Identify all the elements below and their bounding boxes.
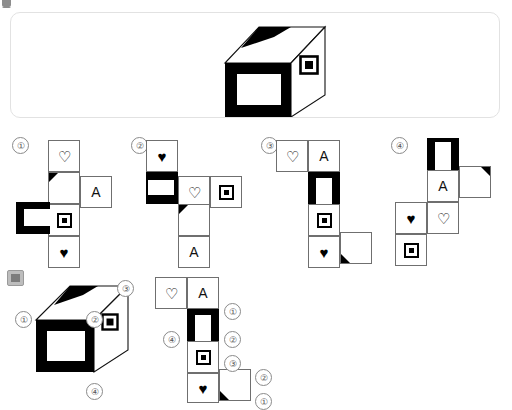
question-cube-svg — [211, 17, 337, 117]
c-shape-notch — [148, 180, 174, 195]
solution-badge-inner — [11, 274, 20, 282]
letter-a-label: A — [179, 237, 209, 267]
option-4-letter-a-cell[interactable]: A — [427, 170, 459, 202]
bordered-square-icon — [404, 243, 419, 258]
letter-a-label: A — [428, 171, 458, 201]
option-4-u-shape-cell[interactable] — [427, 138, 459, 170]
option-1-c-shape-cell[interactable] — [16, 202, 50, 234]
heart-filled-icon: ♥ — [49, 237, 79, 267]
letter-a-label: A — [188, 278, 218, 308]
top-fragment-badge — [2, 0, 24, 8]
corner-triangle-icon — [220, 391, 229, 400]
c-shape-notch — [24, 209, 50, 226]
heart-outline-icon: ♡ — [179, 177, 209, 207]
option-3-letter-a-cell[interactable]: A — [308, 140, 340, 172]
solution-right-face-bordered-square-inner — [107, 319, 114, 326]
solution-net-edge-label-4: ④ — [163, 331, 180, 348]
solution-cube-vertex-4: ④ — [86, 383, 103, 400]
solution-net-heart-outline-cell: ♡ — [155, 277, 187, 309]
fragment-block — [2, 7, 11, 8]
option-1-letter-a-cell[interactable]: A — [80, 176, 112, 208]
option-2-triangle-corner-cell[interactable] — [178, 204, 210, 236]
solution-net-edge-label-2: ② — [224, 331, 241, 348]
front-face-white-rect — [237, 74, 281, 105]
u-shape-slot — [195, 315, 211, 341]
option-3-heart-outline-cell[interactable]: ♡ — [276, 140, 308, 172]
option-3-triangle-corner-cell[interactable] — [340, 232, 372, 264]
option-1-number: ① — [12, 137, 29, 154]
option-3-bordered-square-cell[interactable] — [308, 204, 340, 236]
option-1-triangle-corner-cell[interactable] — [48, 172, 80, 204]
letter-a-label: A — [309, 141, 339, 171]
option-2-letter-a-cell[interactable]: A — [178, 236, 210, 268]
option-3-u-shape-cell[interactable] — [308, 172, 340, 204]
solution-net-edge-label-3: ③ — [224, 355, 241, 372]
option-4-heart-filled-cell[interactable]: ♥ — [395, 202, 427, 234]
corner-triangle-icon — [341, 254, 350, 263]
bordered-square-icon — [57, 213, 72, 228]
solution-net-edge-label-1: ① — [224, 303, 241, 320]
heart-filled-icon: ♥ — [147, 141, 177, 171]
heart-filled-icon: ♥ — [309, 237, 339, 267]
question-cube — [211, 17, 337, 117]
solution-net-heart-filled-cell: ♥ — [187, 373, 219, 403]
option-1-heart-outline-cell[interactable]: ♡ — [48, 140, 80, 172]
option-1-heart-filled-cell[interactable]: ♥ — [48, 236, 80, 268]
option-4-heart-outline-cell[interactable]: ♡ — [427, 202, 459, 234]
heart-filled-icon: ♥ — [396, 203, 426, 233]
option-2-heart-filled-cell[interactable]: ♥ — [146, 140, 178, 172]
bordered-square-icon — [317, 213, 332, 228]
corner-triangle-icon — [481, 167, 490, 176]
solution-net-bordered-square-cell — [187, 341, 219, 373]
heart-outline-icon: ♡ — [428, 203, 458, 233]
u-shape-slot — [435, 142, 451, 170]
option-4-bordered-square-cell[interactable] — [395, 234, 427, 266]
solution-net-letter-a-cell: A — [187, 277, 219, 309]
heart-outline-icon: ♡ — [49, 141, 79, 171]
solution-badge-icon — [7, 270, 24, 286]
option-1-bordered-square-cell[interactable] — [48, 204, 80, 236]
solution-cube-vertex-1: ① — [15, 311, 32, 328]
solution-net-u-shape-cell — [187, 309, 219, 341]
option-2-c-shape-cell[interactable] — [146, 172, 178, 204]
option-3-heart-filled-cell[interactable]: ♥ — [308, 236, 340, 268]
corner-triangle-icon — [179, 205, 188, 214]
heart-outline-icon: ♡ — [156, 278, 186, 308]
right-face-bordered-square-inner — [305, 61, 313, 69]
corner-triangle-icon — [49, 173, 58, 182]
solution-cube-vertex-3: ③ — [117, 280, 134, 297]
solution-net-triangle-corner-cell — [219, 369, 251, 401]
bordered-square-icon — [196, 350, 211, 365]
option-2-bordered-square-cell[interactable] — [210, 176, 242, 208]
option-4-triangle-corner-cell[interactable] — [459, 166, 491, 198]
u-shape-slot — [316, 178, 332, 204]
option-4-number: ④ — [391, 137, 408, 154]
bordered-square-icon — [219, 185, 234, 200]
solution-net-edge-label-6: ① — [255, 393, 272, 410]
heart-outline-icon: ♡ — [277, 141, 307, 171]
solution-cube-vertex-2: ② — [86, 311, 103, 328]
heart-filled-icon: ♥ — [188, 374, 218, 402]
fragment-block — [2, 0, 11, 7]
question-cube-panel — [10, 12, 500, 118]
solution-net-edge-label-5: ② — [255, 369, 272, 386]
solution-front-face-white-rect — [47, 331, 85, 361]
letter-a-label: A — [81, 177, 111, 207]
